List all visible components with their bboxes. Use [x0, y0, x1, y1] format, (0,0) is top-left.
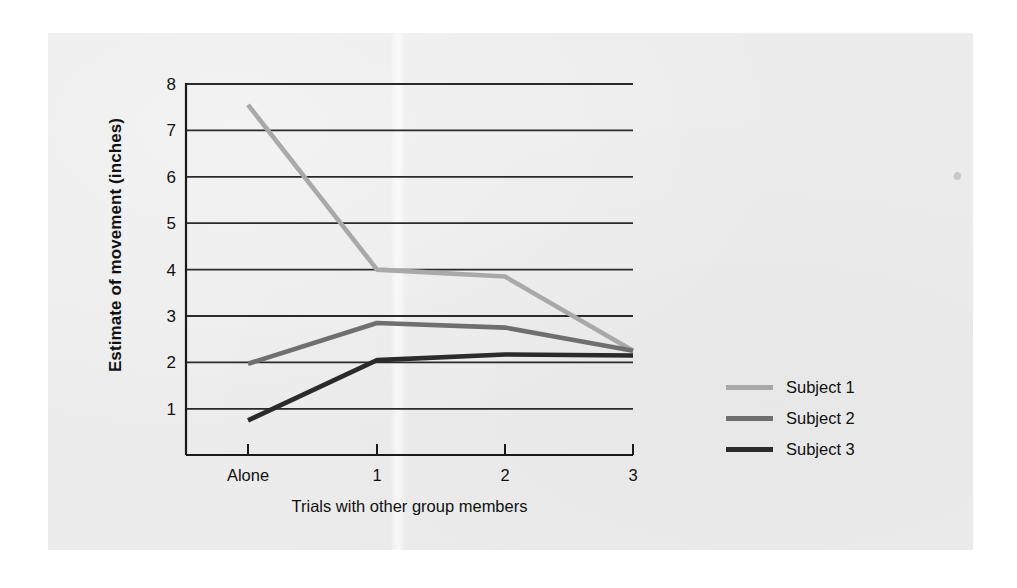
y-tick-label-6: 6 [150, 169, 176, 186]
legend-swatch-subject-3 [726, 447, 773, 452]
legend-item-subject-1[interactable]: Subject 1 [726, 372, 855, 403]
legend-item-subject-2[interactable]: Subject 2 [726, 403, 855, 434]
series-line-subject-1 [248, 105, 633, 351]
y-tick-label-7: 7 [150, 122, 176, 139]
x-tick-label-2: 2 [445, 467, 565, 484]
x-tick-label-alone: Alone [188, 467, 308, 484]
x-axis-ticks-group [248, 444, 633, 455]
series-line-subject-3 [248, 355, 633, 421]
y-tick-label-2: 2 [150, 354, 176, 371]
y-tick-label-5: 5 [150, 215, 176, 232]
legend-label-subject-1: Subject 1 [786, 378, 855, 397]
legend-label-subject-2: Subject 2 [786, 409, 855, 428]
y-tick-label-3: 3 [150, 308, 176, 325]
x-tick-label-3: 3 [573, 467, 693, 484]
y-tick-label-1: 1 [150, 401, 176, 418]
chart-legend: Subject 1 Subject 2 Subject 3 [726, 372, 855, 465]
x-tick-label-1: 1 [317, 467, 437, 484]
legend-swatch-subject-1 [726, 385, 773, 390]
y-tick-label-4: 4 [150, 262, 176, 279]
legend-label-subject-3: Subject 3 [786, 440, 855, 459]
data-series-group [248, 105, 633, 421]
legend-swatch-subject-2 [726, 416, 773, 421]
legend-item-subject-3[interactable]: Subject 3 [726, 434, 855, 465]
y-tick-label-8: 8 [150, 76, 176, 93]
